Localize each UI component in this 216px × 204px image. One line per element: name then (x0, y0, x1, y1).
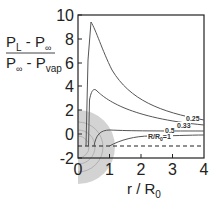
svg-text:10: 10 (56, 7, 74, 24)
curve-labels: 0.25 0.33 0.5 R/R0=1 (147, 115, 200, 142)
svg-text:2: 2 (65, 102, 74, 119)
svg-text:4: 4 (65, 78, 74, 95)
y-axis-tick-labels: 10 8 6 4 2 0 -2 (56, 7, 74, 167)
svg-text:P∞ - Pvap: P∞ - Pvap (6, 54, 62, 74)
svg-text:0.33: 0.33 (177, 122, 191, 129)
svg-text:3: 3 (168, 161, 177, 178)
bubble-pressure-chart: 10 8 6 4 2 0 -2 0 1 2 3 4 0.25 0.33 0.5 … (0, 0, 216, 204)
svg-text:-2: -2 (60, 150, 74, 167)
svg-text:1: 1 (105, 161, 114, 178)
svg-text:0.25: 0.25 (186, 115, 200, 122)
svg-text:6: 6 (65, 55, 74, 72)
x-axis-label: r / R0 (127, 180, 161, 200)
svg-text:r / R0: r / R0 (127, 180, 161, 200)
x-axis-ticks (110, 154, 173, 158)
svg-text:0: 0 (74, 161, 83, 178)
svg-text:0: 0 (65, 126, 74, 143)
svg-text:8: 8 (65, 31, 74, 48)
svg-text:4: 4 (200, 161, 209, 178)
svg-text:2: 2 (137, 161, 146, 178)
y-axis-label: PL - P∞ P∞ - Pvap (6, 33, 62, 74)
svg-text:PL - P∞: PL - P∞ (6, 33, 51, 53)
svg-text:R/R0=1: R/R0=1 (148, 133, 171, 142)
